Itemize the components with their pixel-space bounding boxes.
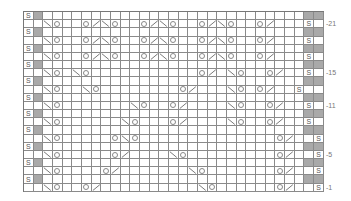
knit-cell: [43, 143, 53, 151]
knit-cell: [72, 77, 82, 85]
knit-cell: [198, 45, 208, 53]
knit-cell: [150, 94, 160, 102]
knit-cell: [72, 184, 82, 192]
slip-stitch-cell: S: [304, 69, 314, 77]
knit-cell: [82, 159, 92, 167]
knit-cell: [121, 61, 131, 69]
knit-cell: [285, 28, 295, 36]
knit-cell: [130, 175, 140, 183]
yarn-over-icon: [275, 184, 285, 192]
gray-cell: [34, 175, 44, 183]
yarn-over-icon: [53, 118, 63, 126]
knit-cell: [266, 61, 276, 69]
knit-cell: [208, 12, 218, 20]
knit-cell: [208, 110, 218, 118]
knit-cell: [130, 86, 140, 94]
knit-cell: [295, 151, 305, 159]
knit-cell: [237, 53, 247, 61]
knit-cell: [159, 69, 169, 77]
knit-cell: [227, 143, 237, 151]
yarn-over-icon: [237, 86, 247, 94]
knit-cell: [130, 77, 140, 85]
ssk-icon: [43, 69, 53, 77]
knit-cell: [266, 175, 276, 183]
knit-cell: [208, 175, 218, 183]
gray-cell: [304, 61, 314, 69]
knit-cell: [295, 28, 305, 36]
k2tog-icon: [285, 151, 295, 159]
knit-cell: [246, 184, 256, 192]
knit-cell: [121, 184, 131, 192]
knit-cell: [159, 135, 169, 143]
knit-cell: [246, 159, 256, 167]
knit-cell: [275, 175, 285, 183]
knit-cell: [140, 184, 150, 192]
knit-cell: [285, 126, 295, 134]
knit-cell: [43, 12, 53, 20]
knit-cell: [285, 20, 295, 28]
knit-cell: [237, 28, 247, 36]
knit-cell: [256, 69, 266, 77]
yarn-over-icon: [256, 53, 266, 61]
knit-cell: [92, 159, 102, 167]
yarn-over-icon: [237, 69, 247, 77]
knit-cell: [217, 110, 227, 118]
yarn-over-icon: [111, 37, 121, 45]
slip-stitch-cell: S: [304, 20, 314, 28]
knit-cell: [198, 110, 208, 118]
knit-cell: [295, 135, 305, 143]
k2tog-icon: [150, 37, 160, 45]
slip-stitch-cell: S: [304, 37, 314, 45]
knit-cell: [101, 69, 111, 77]
knit-cell: [198, 175, 208, 183]
gray-cell: [34, 126, 44, 134]
knit-cell: [246, 12, 256, 20]
knit-cell: [217, 135, 227, 143]
knit-cell: [227, 28, 237, 36]
knit-cell: [198, 143, 208, 151]
ssk-icon: [72, 69, 82, 77]
ssk-icon: [217, 20, 227, 28]
knit-cell: [314, 118, 324, 126]
slip-stitch-cell: S: [314, 184, 324, 192]
knit-cell: [188, 94, 198, 102]
knit-cell: [53, 175, 63, 183]
knit-cell: [266, 126, 276, 134]
yarn-over-icon: [82, 69, 92, 77]
gray-cell: [314, 110, 324, 118]
slip-stitch-cell: S: [24, 175, 34, 183]
knit-cell: [295, 94, 305, 102]
knit-cell: [275, 77, 285, 85]
knit-cell: [208, 61, 218, 69]
ssk-icon: [227, 69, 237, 77]
knit-cell: [53, 12, 63, 20]
knit-cell: [179, 37, 189, 45]
knit-cell: [63, 45, 73, 53]
k2tog-icon: [92, 37, 102, 45]
knit-cell: [237, 159, 247, 167]
knit-cell: [111, 86, 121, 94]
knit-cell: [53, 94, 63, 102]
knit-cell: [208, 118, 218, 126]
row-label: -11: [326, 102, 336, 109]
ssk-icon: [169, 151, 179, 159]
slip-stitch-cell: S: [304, 102, 314, 110]
yarn-over-icon: [130, 118, 140, 126]
knit-cell: [246, 28, 256, 36]
knit-cell: [179, 45, 189, 53]
knit-cell: [169, 45, 179, 53]
knit-cell: [72, 151, 82, 159]
knit-cell: [159, 118, 169, 126]
knit-cell: [63, 37, 73, 45]
knit-cell: [275, 86, 285, 94]
knit-cell: [169, 184, 179, 192]
knit-cell: [63, 20, 73, 28]
knit-cell: [101, 110, 111, 118]
knit-cell: [246, 77, 256, 85]
yarn-over-icon: [198, 37, 208, 45]
knit-cell: [169, 126, 179, 134]
knit-cell: [121, 94, 131, 102]
knit-cell: [130, 143, 140, 151]
knit-cell: [92, 45, 102, 53]
slip-stitch-cell: S: [24, 126, 34, 134]
